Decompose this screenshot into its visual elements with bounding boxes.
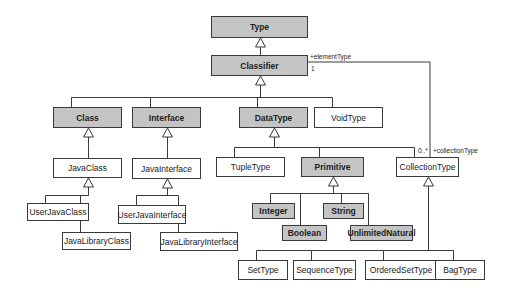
generalization-arrowhead-icon <box>163 179 173 188</box>
class-name: JavaClass <box>68 163 107 173</box>
class-box-userjavaclass[interactable]: UserJavaClass <box>27 203 89 221</box>
class-name: DataType <box>255 113 293 123</box>
association-role-label: 0..* <box>418 147 428 154</box>
generalization-arrowhead-icon <box>84 128 94 137</box>
generalization-arrowhead-icon <box>84 178 94 187</box>
class-box-settype[interactable]: SetType <box>238 260 288 280</box>
class-box-unlimitednatural[interactable]: UnlimitedNatural <box>350 225 413 241</box>
class-box-integer[interactable]: Integer <box>252 203 295 219</box>
class-box-string[interactable]: String <box>323 203 364 219</box>
class-box-sequencetype[interactable]: SequenceType <box>293 260 356 280</box>
class-name: TupleType <box>231 162 270 172</box>
class-box-javalibraryclass[interactable]: JavaLibraryClass <box>62 232 131 250</box>
class-name: UserJavaClass <box>29 207 86 217</box>
class-box-datatype[interactable]: DataType <box>239 107 308 128</box>
class-box-class[interactable]: Class <box>53 107 122 128</box>
association-role-label: 1 <box>311 65 315 72</box>
class-box-javainterface[interactable]: JavaInterface <box>132 158 201 179</box>
class-name: Primitive <box>315 162 351 172</box>
class-name: Interface <box>149 113 184 123</box>
class-name: BagType <box>443 265 477 275</box>
class-name: Class <box>76 113 99 123</box>
generalization-arrowhead-icon <box>256 76 266 85</box>
class-name: OrderedSetType <box>370 265 432 275</box>
class-box-javaclass[interactable]: JavaClass <box>53 158 122 178</box>
class-box-orderedsettype[interactable]: OrderedSetType <box>365 260 437 280</box>
class-box-type[interactable]: Type <box>211 16 308 38</box>
generalization-arrowhead-icon <box>424 177 434 186</box>
generalization-arrowhead-icon <box>256 38 266 47</box>
class-name: JavaLibraryClass <box>64 236 129 246</box>
class-box-boolean[interactable]: Boolean <box>282 225 327 241</box>
association-role-label: +collectionType <box>433 147 478 154</box>
class-name: Boolean <box>288 228 322 238</box>
class-box-interface[interactable]: Interface <box>132 107 201 128</box>
class-box-voidtype[interactable]: VoidType <box>314 107 383 128</box>
class-box-userjavainterface[interactable]: UserJavaInterface <box>118 205 186 224</box>
generalization-arrowhead-icon <box>270 128 280 137</box>
class-box-tupletype[interactable]: TupleType <box>216 157 285 177</box>
class-name: String <box>331 206 356 216</box>
class-box-bagtype[interactable]: BagType <box>435 260 485 280</box>
class-name: Classifier <box>240 61 278 71</box>
class-box-classifier[interactable]: Classifier <box>211 55 308 76</box>
class-name: CollectionType <box>400 162 456 172</box>
class-box-primitive[interactable]: Primitive <box>301 157 364 177</box>
class-name: VoidType <box>331 113 366 123</box>
class-name: JavaLibraryInterface <box>161 237 238 247</box>
generalization-arrowhead-icon <box>163 128 173 137</box>
generalization-arrowhead-icon <box>329 177 339 186</box>
class-name: JavaInterface <box>141 164 192 174</box>
class-box-javalibraryinterface[interactable]: JavaLibraryInterface <box>160 232 238 251</box>
class-name: Type <box>250 22 269 32</box>
class-name: SetType <box>247 265 278 275</box>
class-box-collectiontype[interactable]: CollectionType <box>396 157 459 177</box>
class-name: UserJavaInterface <box>118 210 187 220</box>
class-name: UnlimitedNatural <box>348 228 416 238</box>
class-name: Integer <box>259 206 287 216</box>
class-name: SequenceType <box>296 265 353 275</box>
association-role-label: +elementType <box>310 53 351 60</box>
